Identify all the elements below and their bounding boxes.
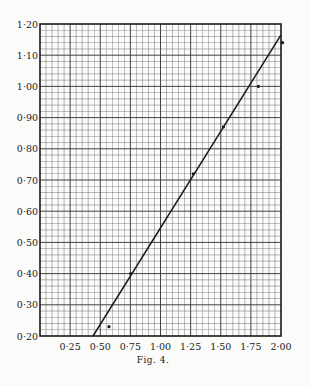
y-tick-label: 0·20 bbox=[17, 331, 38, 342]
data-point bbox=[281, 41, 284, 44]
x-tick-label: 0·75 bbox=[120, 341, 141, 352]
x-tick-label: 1·50 bbox=[210, 341, 231, 352]
grid-lines bbox=[40, 24, 281, 336]
y-tick-label: 0·90 bbox=[17, 112, 38, 123]
y-tick-label: 0·80 bbox=[17, 143, 38, 154]
x-tick-label: 2·00 bbox=[270, 341, 291, 352]
data-points bbox=[107, 41, 284, 328]
data-point bbox=[107, 325, 110, 328]
y-tick-label: 0·30 bbox=[17, 299, 38, 310]
y-axis-ticks: 0·200·300·400·500·600·700·800·901·001·10… bbox=[17, 19, 38, 342]
x-tick-label: 1·00 bbox=[150, 341, 171, 352]
data-point bbox=[129, 272, 132, 275]
y-tick-label: 1·10 bbox=[17, 50, 38, 61]
y-tick-label: 1·20 bbox=[17, 19, 38, 30]
x-tick-label: 1·25 bbox=[180, 341, 201, 352]
figure-caption: Fig. 4. bbox=[137, 355, 170, 365]
y-tick-label: 0·60 bbox=[17, 206, 38, 217]
x-tick-label: 1·75 bbox=[240, 341, 261, 352]
y-tick-label: 0·50 bbox=[17, 237, 38, 248]
data-point bbox=[222, 125, 225, 128]
y-tick-label: 0·40 bbox=[17, 268, 38, 279]
x-tick-label: 0·25 bbox=[60, 341, 81, 352]
y-tick-label: 0·70 bbox=[17, 175, 38, 186]
data-point bbox=[192, 172, 195, 175]
x-tick-label: 0·50 bbox=[90, 341, 111, 352]
y-tick-label: 1·00 bbox=[17, 81, 38, 92]
chart: 0·200·300·400·500·600·700·800·901·001·10… bbox=[0, 0, 311, 386]
data-point bbox=[257, 85, 260, 88]
x-axis-ticks: 0·250·500·751·001·251·501·752·00 bbox=[60, 341, 292, 352]
